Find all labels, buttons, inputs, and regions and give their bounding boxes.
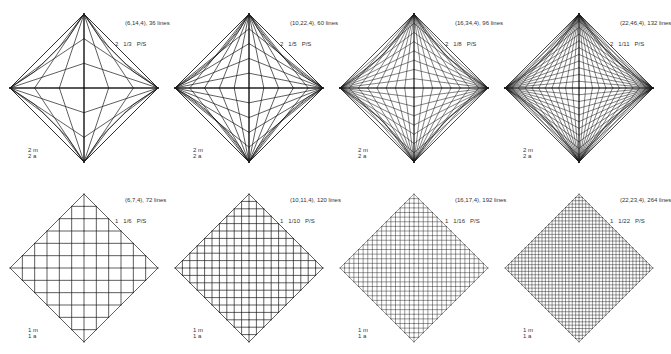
string-art-panel-1: (6,14,4), 36 lines 21/3P/S 2 m 2 a [0, 0, 165, 177]
type-label: P/S [137, 218, 147, 224]
type-label: P/S [467, 41, 477, 47]
tuple-label: (6,14,4), 36 lines [115, 20, 170, 27]
string-art-panel-5: (6,7,4), 72 lines 11/6P/S 1 m 1 a [0, 177, 165, 354]
fraction-label: 1/3 [123, 41, 131, 47]
order-label: 1 [280, 218, 283, 224]
fraction-label: 1/16 [453, 218, 465, 224]
ratio-label: 11/22P/S [610, 218, 671, 225]
string-art-panel-3: (16,34,4), 96 lines 21/8P/S 2 m 2 a [330, 0, 495, 177]
axis-symmetry: 1 a [193, 333, 203, 339]
axis-symmetry: 2 a [28, 153, 38, 159]
tuple-label: (6,7,4), 72 lines [115, 197, 166, 204]
axis-symmetry: 1 a [28, 333, 38, 339]
string-art-panel-6: (10,11,4), 120 lines 11/10P/S 1 m 1 a [165, 177, 330, 354]
order-label: 1 [115, 218, 118, 224]
axis-symmetry: 1 a [358, 333, 368, 339]
string-art-panel-4: (22,46,4), 132 lines 21/11P/S 2 m 2 a [495, 0, 660, 177]
ratio-label: 21/11P/S [610, 41, 671, 48]
fraction-label: 1/10 [288, 218, 300, 224]
string-art-panel-8: (22,23,4), 264 lines 11/22P/S 1 m 1 a [495, 177, 660, 354]
order-label: 1 [610, 218, 613, 224]
symmetry-label: 2 m 2 a [523, 147, 533, 159]
tuple-label: (22,46,4), 132 lines [610, 20, 671, 27]
ratio-label: 21/3P/S [115, 41, 170, 48]
panel-parameters: (6,14,4), 36 lines 21/3P/S [115, 6, 170, 62]
axis-symmetry: 2 a [193, 153, 203, 159]
symmetry-label: 2 m 2 a [358, 147, 368, 159]
fraction-label: 1/6 [123, 218, 131, 224]
order-label: 2 [115, 41, 118, 47]
order-label: 2 [280, 41, 283, 47]
type-label: P/S [470, 218, 480, 224]
panel-parameters: (22,46,4), 132 lines 21/11P/S [610, 6, 671, 62]
symmetry-label: 1 m 1 a [523, 327, 533, 339]
string-art-panel-2: (10,22,4), 60 lines 21/5P/S 2 m 2 a [165, 0, 330, 177]
fraction-label: 1/22 [618, 218, 630, 224]
fraction-label: 1/11 [618, 41, 629, 47]
type-label: P/S [137, 41, 147, 47]
tuple-label: (22,23,4), 264 lines [610, 197, 671, 204]
symmetry-label: 1 m 1 a [358, 327, 368, 339]
order-label: 2 [445, 41, 448, 47]
axis-symmetry: 2 a [523, 153, 533, 159]
fraction-label: 1/8 [453, 41, 461, 47]
panel-parameters: (22,23,4), 264 lines 11/22P/S [610, 183, 671, 239]
type-label: P/S [635, 218, 645, 224]
type-label: P/S [302, 41, 312, 47]
type-label: P/S [635, 41, 645, 47]
axis-symmetry: 2 a [358, 153, 368, 159]
order-label: 1 [445, 218, 448, 224]
string-art-panel-7: (16,17,4), 192 lines 11/16P/S 1 m 1 a [330, 177, 495, 354]
symmetry-label: 2 m 2 a [193, 147, 203, 159]
fraction-label: 1/5 [288, 41, 296, 47]
symmetry-label: 1 m 1 a [193, 327, 203, 339]
order-label: 2 [610, 41, 613, 47]
ratio-label: 11/6P/S [115, 218, 166, 225]
type-label: P/S [305, 218, 315, 224]
axis-symmetry: 1 a [523, 333, 533, 339]
symmetry-label: 2 m 2 a [28, 147, 38, 159]
symmetry-label: 1 m 1 a [28, 327, 38, 339]
panel-parameters: (6,7,4), 72 lines 11/6P/S [115, 183, 166, 239]
